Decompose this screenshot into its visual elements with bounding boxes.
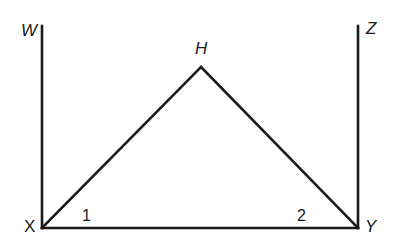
angle-label-1: 1	[82, 207, 91, 224]
point-label-y: Y	[365, 217, 378, 236]
point-label-z: Z	[365, 19, 377, 38]
point-label-x: X	[24, 217, 35, 236]
segment-hy	[201, 67, 358, 228]
segment-xh	[42, 67, 201, 228]
angle-label-2: 2	[297, 207, 306, 224]
point-label-h: H	[195, 39, 208, 58]
geometry-diagram: W Z H X Y 1 2	[0, 0, 405, 252]
point-label-w: W	[21, 21, 39, 40]
